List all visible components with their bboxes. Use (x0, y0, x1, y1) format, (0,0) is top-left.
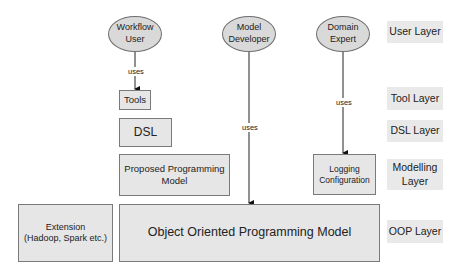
oop-model-label: Object Oriented Programming Model (148, 225, 352, 241)
user-layer-text: User Layer (389, 25, 440, 39)
workflow-uses-label: uses (127, 67, 145, 76)
dsl-layer-text: DSL Layer (390, 124, 439, 138)
domain-expert-label-2: Expert (330, 34, 356, 44)
proposed-label-1: Proposed Programming (124, 163, 224, 174)
modelling-layer-label: ModellingLayer (387, 159, 443, 190)
proposed-label-2: Model (162, 175, 188, 186)
model-developer-label-1: Model (237, 22, 262, 32)
workflow-user-label-1: Workflow (117, 22, 154, 32)
logging-label-1: Logging (329, 164, 359, 174)
logging-config-box: LoggingConfiguration (313, 154, 376, 195)
model-developer-label-2: Developer (228, 34, 269, 44)
extension-label-1: Extension (46, 222, 86, 232)
domain-expert-label-1: Domain (327, 22, 358, 32)
tools-label: Tools (124, 94, 146, 106)
dsl-label: DSL (134, 125, 157, 140)
developer-uses-label: uses (241, 123, 259, 132)
expert-uses-label: uses (335, 98, 353, 107)
oop-layer-label: OOP Layer (387, 220, 443, 243)
dsl-box: DSL (119, 118, 172, 147)
dsl-layer-label: DSL Layer (387, 120, 443, 142)
tools-box: Tools (119, 90, 151, 110)
logging-label-2: Configuration (319, 175, 370, 185)
modelling-layer-text-2: Layer (402, 175, 428, 187)
oop-model-box: Object Oriented Programming Model (119, 204, 380, 262)
model-developer-node: ModelDeveloper (222, 16, 276, 52)
modelling-layer-text-1: Modelling (393, 161, 438, 173)
extension-label-2: (Hadoop, Spark etc.) (24, 233, 107, 243)
tool-layer-text: Tool Layer (391, 92, 439, 106)
domain-expert-node: DomainExpert (316, 16, 370, 52)
workflow-user-node: WorkflowUser (108, 16, 162, 52)
oop-layer-text: OOP Layer (389, 225, 441, 239)
proposed-model-box: Proposed ProgrammingModel (119, 154, 230, 196)
user-layer-label: User Layer (387, 21, 443, 43)
workflow-user-label-2: User (125, 34, 144, 44)
tool-layer-label: Tool Layer (387, 87, 443, 110)
extension-box: Extension(Hadoop, Spark etc.) (18, 204, 113, 262)
